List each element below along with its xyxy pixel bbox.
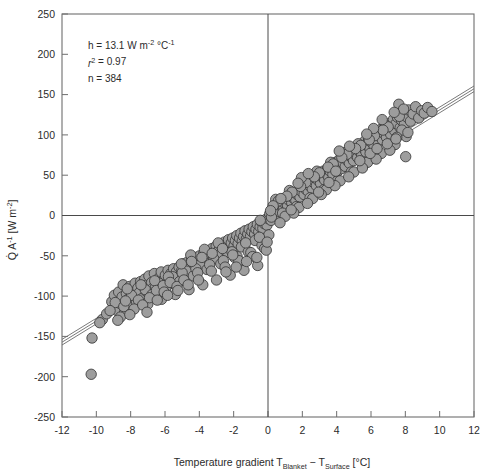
x-tick-label: -2 (229, 424, 238, 436)
data-point (324, 177, 334, 187)
data-point (105, 305, 115, 315)
data-point (120, 296, 130, 306)
y-tick-label: -250 (34, 411, 55, 423)
data-point (142, 307, 152, 317)
data-point (207, 248, 217, 258)
annotation-heat-transfer-coefficient: h = 13.1 W m-2 °C-1 (88, 38, 175, 51)
y-tick-label: -150 (34, 330, 55, 342)
y-tick-label: 250 (37, 8, 55, 20)
y-tick-label: 0 (49, 209, 55, 221)
data-point (286, 205, 296, 215)
x-tick-label: -12 (54, 424, 69, 436)
data-point (265, 205, 275, 215)
data-point (152, 295, 162, 305)
data-point (391, 134, 401, 144)
data-point (176, 259, 186, 269)
data-point (344, 141, 354, 151)
data-point (86, 369, 96, 379)
data-point (302, 198, 312, 208)
data-point (343, 172, 353, 182)
x-tick-label: 8 (402, 424, 408, 436)
data-point (122, 284, 132, 294)
plot-svg: 250200150100500-50-100-150-200-250 -12-1… (0, 0, 488, 475)
data-point (262, 237, 272, 247)
data-point (217, 243, 227, 253)
data-point (252, 252, 262, 262)
data-point (378, 125, 388, 135)
data-point (197, 252, 207, 262)
data-point (334, 146, 344, 156)
annotation-n: n = 384 (88, 73, 122, 84)
data-point (377, 114, 387, 124)
scatter-plot-figure: 250200150100500-50-100-150-200-250 -12-1… (0, 0, 488, 475)
data-point (95, 318, 105, 328)
y-tick-label: -100 (34, 290, 55, 302)
data-point (186, 256, 196, 266)
data-point (427, 106, 437, 116)
data-point (362, 129, 372, 139)
x-tick-label: 10 (434, 424, 446, 436)
data-point (125, 309, 135, 319)
x-tick-label: 12 (468, 424, 480, 436)
y-tick-label: 50 (43, 169, 55, 181)
data-point (113, 315, 123, 325)
data-point (162, 290, 172, 300)
y-tick-label: -50 (40, 250, 55, 262)
data-point (206, 266, 216, 276)
y-tick-label: 150 (37, 88, 55, 100)
x-tick-label: -6 (160, 424, 169, 436)
data-point (293, 178, 303, 188)
x-tick-label: -8 (126, 424, 135, 436)
y-tick-label: 200 (37, 48, 55, 60)
data-point (173, 285, 183, 295)
y-tick-label: 100 (37, 129, 55, 141)
data-point (313, 187, 323, 197)
data-point (228, 250, 238, 260)
x-tick-label: 2 (299, 424, 305, 436)
data-point (240, 238, 250, 248)
x-tick-label: -4 (195, 424, 204, 436)
data-point (221, 267, 231, 277)
data-point (241, 256, 251, 266)
data-point (275, 218, 285, 228)
y-tick-label: -200 (34, 371, 55, 383)
data-point (193, 275, 203, 285)
data-point (87, 333, 97, 343)
x-tick-label: 6 (368, 424, 374, 436)
data-point (400, 151, 410, 161)
data-point (403, 127, 413, 137)
data-point (372, 143, 382, 153)
x-tick-label: 4 (334, 424, 340, 436)
data-point (231, 262, 241, 272)
data-point (398, 104, 408, 114)
data-point (276, 193, 286, 203)
data-point (255, 215, 265, 225)
data-point (331, 166, 341, 176)
x-tick-label: -10 (89, 424, 104, 436)
data-point (389, 107, 399, 117)
data-point (183, 280, 193, 290)
data-point (136, 280, 146, 290)
x-tick-label: 0 (265, 424, 271, 436)
data-point (355, 155, 365, 165)
data-point (303, 168, 313, 178)
